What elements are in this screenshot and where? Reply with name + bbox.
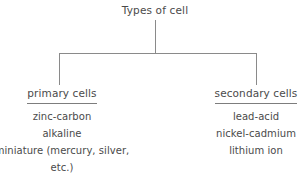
branch-primary-items: zinc-carbon alkaline miniature (mercury,… — [0, 108, 137, 174]
branch-primary-title: primary cells — [27, 85, 96, 104]
branch-secondary-item-0: lead-acid — [181, 108, 305, 125]
diagram-canvas: Types of cell primary cells zinc-carbon … — [0, 0, 305, 174]
branch-secondary-item-2: lithium ion — [181, 142, 305, 159]
connector-crossbar — [59, 53, 257, 54]
connector-root-stem — [155, 20, 156, 54]
branch-primary: primary cells zinc-carbon alkaline minia… — [0, 85, 137, 174]
branch-primary-item-2: miniature (mercury, silver, etc.) — [0, 142, 137, 174]
branch-primary-item-1: alkaline — [0, 125, 137, 142]
branch-secondary: secondary cells lead-acid nickel-cadmium… — [181, 85, 305, 159]
branch-primary-item-0: zinc-carbon — [0, 108, 137, 125]
branch-secondary-items: lead-acid nickel-cadmium lithium ion — [181, 108, 305, 159]
branch-secondary-item-1: nickel-cadmium — [181, 125, 305, 142]
connector-drop-right — [256, 53, 257, 85]
root-node: Types of cell — [0, 4, 305, 16]
branch-secondary-title: secondary cells — [215, 85, 298, 104]
connector-drop-left — [59, 53, 60, 85]
root-node-label: Types of cell — [122, 4, 188, 16]
